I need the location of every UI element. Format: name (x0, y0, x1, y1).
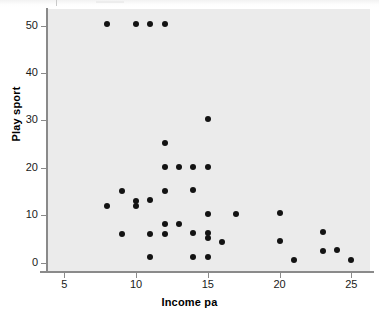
y-tick-mark (41, 215, 47, 216)
data-point (190, 164, 196, 170)
data-point (162, 164, 168, 170)
data-point (348, 257, 354, 263)
data-point (133, 203, 139, 209)
y-tick-mark (41, 168, 47, 169)
data-point (162, 231, 168, 237)
x-tick-label: 25 (339, 279, 363, 290)
data-point (291, 257, 297, 263)
data-point (233, 211, 239, 217)
x-tick-label: 5 (52, 279, 76, 290)
y-tick-label: 30 (26, 114, 38, 125)
y-tick-mark (41, 26, 47, 27)
scatter-plot-figure: Play sport Income pa 0102030405051015202… (0, 0, 379, 317)
data-point (219, 239, 225, 245)
data-point (162, 221, 168, 227)
data-point (205, 211, 211, 217)
scan-artifact (0, 0, 379, 7)
data-point (190, 230, 196, 236)
x-axis-title: Income pa (0, 296, 379, 308)
data-point (176, 221, 182, 227)
data-point (147, 254, 153, 260)
data-point (119, 188, 125, 194)
data-point (277, 210, 283, 216)
x-tick-label: 10 (124, 279, 148, 290)
data-point (205, 254, 211, 260)
y-tick-mark (41, 120, 47, 121)
x-tick-label: 20 (268, 279, 292, 290)
y-axis-title: Play sport (10, 74, 22, 154)
x-tick-label: 15 (196, 279, 220, 290)
data-point (190, 254, 196, 260)
y-tick-label: 10 (26, 209, 38, 220)
y-tick-label: 20 (26, 162, 38, 173)
data-point (334, 247, 340, 253)
data-point (147, 197, 153, 203)
data-point (205, 235, 211, 241)
y-tick-mark (41, 263, 47, 264)
y-axis-line (46, 8, 48, 273)
data-point (104, 203, 110, 209)
data-point (119, 231, 125, 237)
data-point (162, 188, 168, 194)
data-point (277, 238, 283, 244)
data-point (147, 231, 153, 237)
data-point (176, 164, 182, 170)
data-point (104, 21, 110, 27)
y-tick-label: 50 (26, 20, 38, 31)
plot-area (47, 9, 370, 272)
data-point (147, 21, 153, 27)
data-point (190, 187, 196, 193)
data-point (133, 21, 139, 27)
data-point (162, 140, 168, 146)
data-point (320, 229, 326, 235)
y-tick-mark (41, 73, 47, 74)
data-point (205, 116, 211, 122)
data-point (162, 21, 168, 27)
data-point (320, 248, 326, 254)
y-tick-label: 0 (32, 257, 38, 268)
y-tick-label: 40 (26, 67, 38, 78)
data-point (205, 164, 211, 170)
